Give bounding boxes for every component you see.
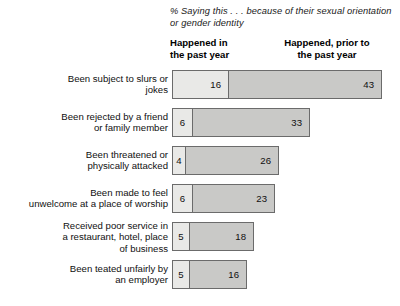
row-label-line: of business [4, 242, 168, 254]
segment-value: 5 [173, 269, 189, 280]
row-label-line: a restaurant, hotel, place [4, 231, 168, 243]
chart-rows: Been subject to slurs orjokes1643Been re… [0, 0, 400, 306]
row-label-line: Been teated unfairly by [4, 263, 168, 275]
row-label-line: or family member [4, 123, 168, 135]
segment-value: 26 [260, 155, 271, 166]
segment-value: 23 [256, 193, 267, 204]
segment-happened-prior-year: 33 [193, 108, 310, 137]
stacked-bar-chart: % Saying this . . . because of their sex… [0, 0, 400, 306]
segment-happened-past-year: 5 [172, 260, 190, 289]
row-label: Been threatened orphysically attacked [4, 149, 168, 172]
segment-value: 33 [291, 117, 302, 128]
row-label-line: Been threatened or [4, 149, 168, 161]
segment-value: 16 [228, 269, 239, 280]
segment-happened-past-year: 16 [172, 70, 229, 99]
row-label-line: Been rejected by a friend [4, 111, 168, 123]
row-label-line: jokes [4, 85, 168, 97]
row-label-line: an employer [4, 275, 168, 287]
segment-happened-prior-year: 16 [190, 260, 247, 289]
segment-happened-past-year: 4 [172, 146, 186, 175]
row-label-line: unwelcome at a place of worship [4, 199, 168, 211]
row-label: Received poor service ina restaurant, ho… [4, 219, 168, 254]
segment-happened-past-year: 6 [172, 108, 193, 137]
chart-row: Been rejected by a friendor family membe… [0, 108, 400, 137]
row-label: Been made to feelunwelcome at a place of… [4, 187, 168, 210]
segment-value: 43 [363, 79, 374, 90]
chart-row: Received poor service ina restaurant, ho… [0, 222, 400, 251]
stacked-bar: 1643 [172, 70, 382, 99]
segment-value: 6 [173, 193, 192, 204]
segment-happened-prior-year: 26 [186, 146, 279, 175]
segment-value: 16 [210, 79, 221, 90]
segment-value: 5 [173, 231, 189, 242]
row-label-line: Received poor service in [4, 219, 168, 231]
stacked-bar: 518 [172, 222, 254, 251]
segment-happened-prior-year: 23 [193, 184, 275, 213]
segment-happened-past-year: 6 [172, 184, 193, 213]
segment-happened-prior-year: 43 [229, 70, 382, 99]
row-label: Been teated unfairly byan employer [4, 263, 168, 286]
stacked-bar: 516 [172, 260, 247, 289]
chart-row: Been threatened orphysically attacked426 [0, 146, 400, 175]
chart-row: Been subject to slurs orjokes1643 [0, 70, 400, 99]
segment-happened-past-year: 5 [172, 222, 190, 251]
segment-value: 6 [173, 117, 192, 128]
row-label: Been rejected by a friendor family membe… [4, 111, 168, 134]
segment-value: 4 [173, 155, 185, 166]
row-label-line: Been subject to slurs or [4, 73, 168, 85]
chart-row: Been made to feelunwelcome at a place of… [0, 184, 400, 213]
row-label-line: physically attacked [4, 161, 168, 173]
stacked-bar: 623 [172, 184, 275, 213]
stacked-bar: 426 [172, 146, 279, 175]
segment-value: 18 [235, 231, 246, 242]
segment-happened-prior-year: 18 [190, 222, 254, 251]
row-label-line: Been made to feel [4, 187, 168, 199]
chart-row: Been teated unfairly byan employer516 [0, 260, 400, 289]
stacked-bar: 633 [172, 108, 310, 137]
row-label: Been subject to slurs orjokes [4, 73, 168, 96]
